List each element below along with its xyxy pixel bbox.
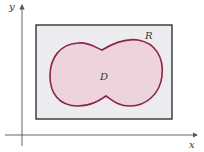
double-integral-region-diagram: y x R D (0, 0, 204, 152)
x-axis-label: x (189, 139, 195, 150)
y-axis-label: y (8, 1, 15, 12)
rectangle-label: R (144, 30, 153, 41)
region-label: D (99, 71, 108, 82)
